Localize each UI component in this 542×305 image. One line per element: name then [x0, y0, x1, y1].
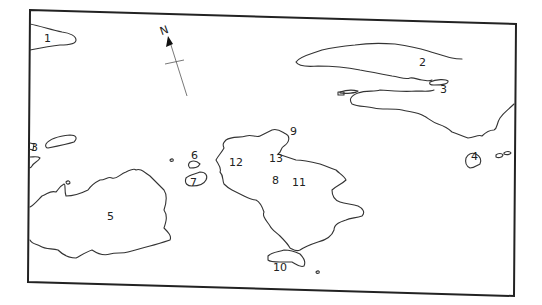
label-10: 10 [273, 261, 287, 274]
island-6 [189, 161, 201, 168]
label-4: 4 [471, 150, 478, 163]
islet-left-b [29, 157, 40, 168]
islet-near-5 [66, 181, 70, 184]
label-9: 9 [290, 125, 297, 138]
islet-near-4-a [496, 154, 503, 158]
map-canvas: N 1 2 3 3 4 5 6 7 8 9 10 11 12 13 [0, 0, 542, 305]
north-arrow-icon [166, 36, 173, 47]
island-1 [30, 24, 76, 50]
label-5: 5 [107, 210, 114, 223]
label-7: 7 [190, 176, 197, 189]
label-2: 2 [419, 56, 426, 69]
label-11: 11 [292, 176, 306, 189]
island-3 [350, 90, 514, 138]
island-main [216, 129, 364, 250]
islet-left-a [46, 135, 76, 148]
island-2 [296, 43, 462, 81]
islet-near-10 [316, 271, 319, 274]
compass-needle-line [170, 42, 187, 96]
label-13: 13 [269, 152, 283, 165]
islet-near-6 [170, 159, 173, 162]
compass-north-label: N [158, 23, 170, 38]
island-5 [30, 169, 171, 258]
compass-crossbar [165, 60, 184, 64]
label-3-left: 3 [31, 141, 38, 154]
label-3: 3 [440, 83, 447, 96]
label-1: 1 [44, 32, 51, 45]
islet-near-4-b [504, 152, 511, 155]
label-6: 6 [191, 149, 198, 162]
compass: N [158, 23, 187, 96]
label-12: 12 [229, 156, 243, 169]
label-8: 8 [272, 174, 279, 187]
